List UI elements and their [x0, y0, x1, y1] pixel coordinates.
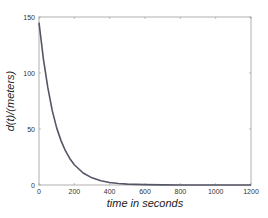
x-tick-label: 800	[174, 188, 186, 195]
x-tick-label: 400	[104, 188, 116, 195]
y-tick-label: 0	[31, 182, 35, 189]
chart: 020040060080010001200 050100150 time in …	[0, 0, 268, 218]
x-tick-label: 1200	[243, 188, 259, 195]
x-axis-label: time in seconds	[107, 197, 184, 209]
y-tick-label: 50	[27, 126, 35, 133]
y-axis-label: d(t)/(meters)	[4, 70, 16, 131]
x-tick-label: 1000	[208, 188, 224, 195]
x-tick-label: 0	[37, 188, 41, 195]
x-tick-label: 600	[139, 188, 151, 195]
x-tick-label: 200	[68, 188, 80, 195]
y-tick-label: 150	[23, 14, 35, 21]
y-tick-label: 100	[23, 70, 35, 77]
